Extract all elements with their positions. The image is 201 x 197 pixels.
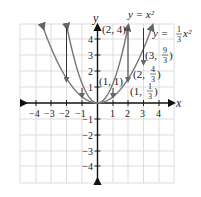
svg-text:(2,: (2,: [133, 68, 145, 81]
y-axis-label: y: [92, 11, 99, 25]
svg-text:−4: −4: [29, 108, 40, 119]
x-axis-label: x: [175, 96, 182, 110]
svg-text:−3: −3: [82, 146, 93, 157]
svg-text:9: 9: [163, 46, 167, 55]
svg-text:−1: −1: [82, 114, 93, 125]
svg-text:x²: x²: [182, 27, 192, 39]
svg-text:1: 1: [110, 108, 115, 119]
label-y-equals-third-x-squared: y = 1 3 x²: [152, 25, 192, 44]
point-label-1-1-3: (1, 1 3 ): [130, 82, 158, 101]
svg-text:2: 2: [88, 66, 93, 77]
point-label-2-4: (2, 4): [102, 23, 126, 36]
svg-text:−2: −2: [82, 130, 93, 141]
svg-text:4: 4: [88, 34, 93, 45]
svg-text:(3,: (3,: [145, 49, 157, 62]
svg-text:): ): [157, 68, 161, 81]
svg-text:3: 3: [88, 50, 93, 61]
svg-text:3: 3: [163, 56, 167, 65]
svg-text:−4: −4: [82, 161, 93, 172]
parabola-graph: y x −4 −3 −2 −1 1 2 3 4 4 3 2 1 −1 −2 −3…: [0, 0, 201, 197]
svg-text:1: 1: [148, 82, 152, 91]
svg-text:(1,: (1,: [130, 85, 142, 98]
svg-text:4: 4: [156, 108, 161, 119]
svg-text:1: 1: [177, 25, 181, 34]
svg-text:): ): [154, 85, 158, 98]
svg-text:): ): [169, 49, 173, 62]
svg-text:4: 4: [151, 65, 155, 74]
svg-text:−2: −2: [59, 108, 70, 119]
label-y-equals-x-squared: y = x²: [127, 8, 155, 20]
svg-text:−3: −3: [44, 108, 55, 119]
svg-text:2: 2: [125, 108, 130, 119]
x-tick-labels: −4 −3 −2 −1 1 2 3 4: [29, 108, 161, 119]
svg-text:y =: y =: [152, 27, 168, 39]
svg-text:3: 3: [140, 108, 145, 119]
svg-text:3: 3: [148, 92, 152, 101]
point-label-2-4-3: (2, 4 3 ): [133, 65, 161, 84]
svg-text:1: 1: [88, 82, 93, 93]
svg-text:3: 3: [177, 35, 181, 44]
point-label-1-1: (1, 1): [99, 75, 123, 88]
